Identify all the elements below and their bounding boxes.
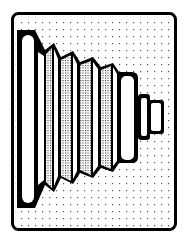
- collar: [121, 76, 134, 160]
- left-ring: [22, 35, 34, 203]
- bellows-illustration: [0, 0, 188, 245]
- pleat-4: [101, 66, 111, 169]
- pleat-2: [61, 55, 71, 181]
- pleat-1: [38, 52, 44, 185]
- pleat-3: [80, 61, 91, 175]
